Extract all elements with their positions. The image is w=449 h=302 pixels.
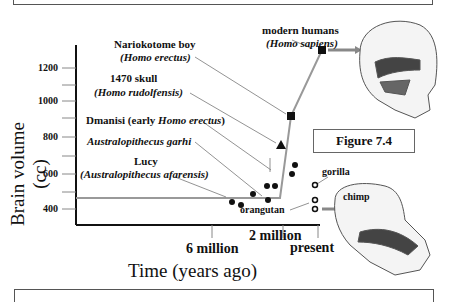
label-homo-sapiens: (Homo sapiens) bbox=[266, 37, 338, 49]
x-axis-title: Time (years ago) bbox=[128, 260, 257, 282]
label-gorilla: gorilla bbox=[322, 166, 350, 178]
label-afarensis: (Australopithecus afarensis) bbox=[80, 168, 209, 180]
label-dmanisi: Dmanisi (early Homo erectus) bbox=[86, 114, 225, 126]
label-homo-rudolfensis: (Homo rudolfensis) bbox=[94, 86, 183, 98]
label-chimp: chimp bbox=[343, 191, 370, 203]
label-lucy: Lucy bbox=[134, 155, 158, 167]
label-1470-skull: 1470 skull bbox=[110, 72, 157, 84]
label-garhi: Australopithecus garhi bbox=[87, 135, 191, 147]
y-axis-title: Brain volume (cc) bbox=[7, 109, 51, 239]
label-homo-erectus: (Homo erectus) bbox=[120, 51, 191, 63]
y-tick-1000: 1000 bbox=[28, 95, 58, 106]
label-orangutan: orangutan bbox=[240, 204, 284, 216]
label-nariokotome: Nariokotome boy bbox=[114, 38, 196, 50]
figure-label: Figure 7.4 bbox=[313, 129, 415, 153]
human-skull-icon bbox=[360, 21, 437, 118]
label-modern-humans: modern humans bbox=[262, 24, 339, 36]
y-tick-1200: 1200 bbox=[28, 62, 58, 73]
x-tick-present: present bbox=[290, 240, 334, 256]
x-tick-6-million: 6 million bbox=[186, 241, 239, 257]
